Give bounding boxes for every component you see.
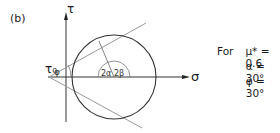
legend-line-phi: φ = 30° bbox=[246, 75, 280, 90]
parameter-legend: Forμ* = 0.6 α = 30° φ = 30° bbox=[217, 45, 280, 90]
legend-prefix: For bbox=[217, 45, 233, 60]
phi-angle-arc bbox=[68, 65, 71, 77]
two-alpha-label: 2α bbox=[101, 69, 111, 78]
lower-envelope-line bbox=[49, 77, 142, 128]
panel-label: (b) bbox=[10, 13, 26, 24]
two-beta-label: 2β bbox=[114, 69, 124, 78]
legend-line-mu: μ* = 0.6 bbox=[245, 45, 280, 60]
tau-axis-label: τ bbox=[67, 3, 74, 15]
upper-envelope-line bbox=[49, 23, 146, 77]
sigma-axis-label: σ bbox=[191, 70, 199, 83]
sigma-axis-arrow-icon bbox=[182, 75, 190, 79]
tau0-label: τ₀ bbox=[45, 63, 57, 75]
legend-line-alpha: α = 30° bbox=[246, 60, 280, 75]
